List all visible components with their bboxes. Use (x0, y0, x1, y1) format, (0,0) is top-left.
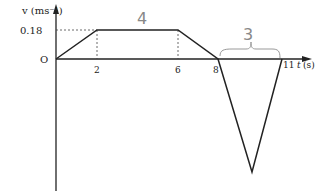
handwritten-note-3: 3 (243, 25, 253, 44)
x-tick-6: 6 (175, 65, 181, 75)
handwritten-note-4: 4 (137, 9, 147, 28)
x-tick-11: 11 (283, 60, 294, 70)
y-axis-label: v (ms⁻¹) (21, 5, 63, 16)
brace-annotation (220, 42, 280, 58)
x-tick-8: 8 (213, 65, 219, 75)
x-axis-unit: (s) (303, 60, 315, 70)
x-axis-label-t: t (297, 60, 301, 70)
velocity-line (56, 30, 282, 172)
x-tick-2: 2 (94, 65, 100, 75)
origin-label: O (40, 54, 48, 65)
y-tick-0.18: 0.18 (20, 25, 42, 36)
velocity-time-graph: v (ms⁻¹) 0.18 O 2 6 8 11 t (s) 4 3 (0, 0, 325, 191)
